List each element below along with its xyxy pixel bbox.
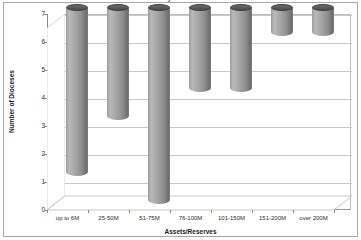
- x-axis-title: Assets/Reserves: [47, 228, 334, 235]
- bar-body: [271, 8, 293, 36]
- bar[interactable]: [271, 8, 293, 36]
- x-tick-mark: [88, 210, 89, 213]
- y-axis-title: Number of Dioceses: [8, 62, 15, 142]
- y-tick-label: 7: [19, 11, 45, 18]
- y-tick-label: 2: [19, 151, 45, 158]
- y-tick-label: 0: [19, 207, 45, 214]
- x-tick-mark: [129, 210, 130, 213]
- y-tick-label: 1: [19, 179, 45, 186]
- bar[interactable]: [66, 8, 88, 176]
- chart-frame: Dioceses by Assets/Reserves Number of Di…: [0, 0, 361, 240]
- gridline: [65, 127, 352, 128]
- bar-body: [148, 8, 170, 204]
- x-tick-mark: [170, 210, 171, 213]
- x-tick-mark: [252, 210, 253, 213]
- bar-body: [66, 8, 88, 176]
- y-tick-label: 3: [19, 123, 45, 130]
- bar[interactable]: [312, 8, 334, 36]
- gridline: [65, 155, 352, 156]
- y-tick-label: 4: [19, 95, 45, 102]
- bar-body: [189, 8, 211, 92]
- gridline: [65, 183, 352, 184]
- bar-body: [312, 8, 334, 36]
- x-tick-mark: [334, 210, 335, 213]
- bar-body: [230, 8, 252, 92]
- plot-area: up to 6M25-50M51-75M76-100M101-150M151-2…: [47, 14, 334, 210]
- bar[interactable]: [107, 8, 129, 120]
- chart-title: Dioceses by Assets/Reserves: [0, 0, 361, 2]
- bar[interactable]: [230, 8, 252, 92]
- y-tick-label: 6: [19, 39, 45, 46]
- x-tick-mark: [293, 210, 294, 213]
- plot-side-wall: [47, 14, 65, 224]
- y-tick-label: 5: [19, 67, 45, 74]
- x-tick-mark: [211, 210, 212, 213]
- x-tick-mark: [47, 210, 48, 213]
- bar[interactable]: [148, 8, 170, 204]
- x-tick-label: over 200M: [286, 215, 342, 221]
- bar-body: [107, 8, 129, 120]
- bar[interactable]: [189, 8, 211, 92]
